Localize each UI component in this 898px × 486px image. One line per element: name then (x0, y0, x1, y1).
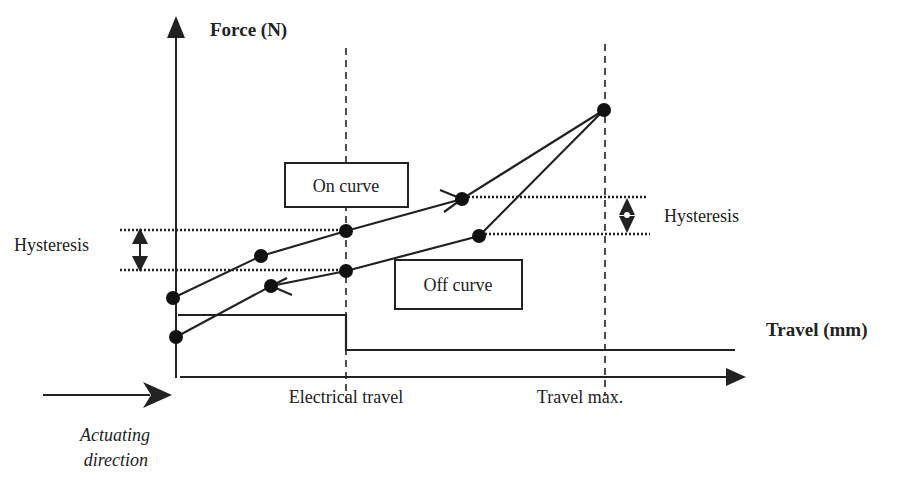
hysteresis-diagram: Force (N) Travel (mm) On curve (0, 0, 898, 486)
actuating-direction-arrow-icon (43, 382, 172, 408)
actuating-label-line1: Actuating (79, 425, 150, 445)
point-on-electrical (339, 224, 353, 238)
point-on-1 (254, 249, 268, 263)
electrical-switch-line (178, 315, 735, 350)
point-on-3 (455, 192, 469, 206)
hysteresis-right-double-arrow-icon (619, 198, 635, 233)
y-axis (167, 16, 185, 378)
point-off-end (169, 330, 183, 344)
point-off-3 (264, 279, 278, 293)
point-off-1 (472, 229, 486, 243)
y-axis-label: Force (N) (210, 19, 287, 41)
off-curve-label-box: Off curve (395, 260, 522, 309)
point-travel-max (597, 103, 611, 117)
on-curve-label: On curve (313, 176, 379, 196)
x-axis (180, 368, 746, 386)
hysteresis-left-label: Hysteresis (14, 235, 89, 255)
on-curve-label-box: On curve (285, 163, 408, 207)
y-axis-arrow-icon (167, 16, 185, 38)
hysteresis-left-double-arrow-icon (132, 228, 148, 272)
x-axis-arrow-icon (726, 368, 746, 386)
x-axis-label: Travel (mm) (766, 319, 867, 341)
hysteresis-right-label: Hysteresis (664, 206, 739, 226)
off-curve-label: Off curve (423, 275, 492, 295)
point-off-electrical (339, 264, 353, 278)
electrical-travel-label: Electrical travel (289, 387, 403, 407)
actuating-label-line2: direction (84, 450, 148, 470)
travel-max-label: Travel max. (537, 387, 623, 407)
off-curve-line (176, 110, 604, 337)
point-on-start (166, 291, 180, 305)
